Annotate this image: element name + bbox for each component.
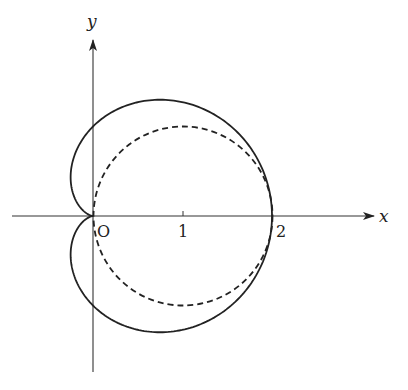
origin-label: O [97,222,110,241]
x-axis-label: x [379,206,389,226]
x-tick-label-2: 2 [276,222,286,241]
x-tick-label-1: 1 [178,222,188,241]
plot-canvas: y x O 1 2 [0,0,408,390]
y-axis-label: y [86,11,97,31]
